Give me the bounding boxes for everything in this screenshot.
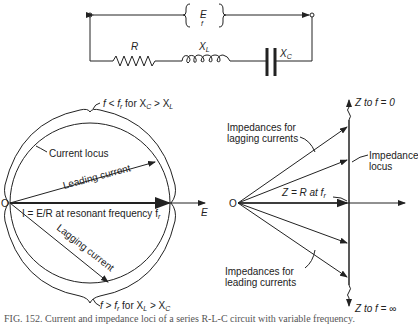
source-brace-right bbox=[219, 4, 226, 27]
left-terminal bbox=[88, 13, 92, 17]
z-to-infinity-label: Z to f = ∞ bbox=[354, 303, 396, 314]
current-locus-label: Current locus bbox=[49, 148, 108, 159]
locus-break-bottom bbox=[348, 285, 351, 306]
top-frequency-note: f < fr for XC > XL bbox=[103, 98, 173, 110]
source-brace-left bbox=[183, 4, 190, 27]
resistor-label: R bbox=[131, 41, 138, 52]
resonant-impedance-label: Z = R at fr bbox=[281, 187, 326, 199]
e-axis-label: E bbox=[201, 207, 208, 218]
frequency-label: f bbox=[201, 20, 204, 27]
capacitor-label: XC bbox=[279, 48, 293, 60]
impedance-locus-label-1: Impedance bbox=[369, 150, 418, 161]
leading-impedance-label-2: leading currents bbox=[225, 277, 296, 288]
lagging-current-label: Lagging current bbox=[55, 222, 117, 274]
origin-label-current: O bbox=[1, 198, 9, 209]
leading-impedance-label-1: Impedances for bbox=[225, 266, 295, 277]
z-to-zero-label: Z to f = 0 bbox=[354, 97, 395, 108]
leading-current-label: Leading current bbox=[62, 162, 132, 191]
lagging-impedance-label-2: lagging currents bbox=[227, 133, 298, 144]
source-label: E bbox=[200, 9, 207, 20]
outer-frequency-bracket bbox=[5, 109, 176, 303]
figure-caption: FIG. 152. Current and impedance loci of … bbox=[4, 313, 355, 324]
bottom-frequency-note: f > fr for XL > XC bbox=[100, 300, 171, 312]
current-locus-diagram bbox=[5, 103, 206, 306]
impedance-locus-label-2: locus bbox=[369, 161, 392, 172]
leading-impedance-vector-1 bbox=[238, 203, 347, 243]
right-terminal bbox=[310, 13, 314, 17]
resonant-current-label: I = E/R at resonant frequency fr bbox=[22, 208, 161, 220]
locus-break-top bbox=[348, 100, 351, 120]
inductor-symbol bbox=[182, 55, 230, 63]
inductor-label: XL bbox=[198, 41, 210, 53]
lagging-impedance-label-1: Impedances for bbox=[227, 122, 297, 133]
resistor-symbol bbox=[113, 56, 155, 66]
origin-label-impedance: O bbox=[229, 198, 237, 209]
